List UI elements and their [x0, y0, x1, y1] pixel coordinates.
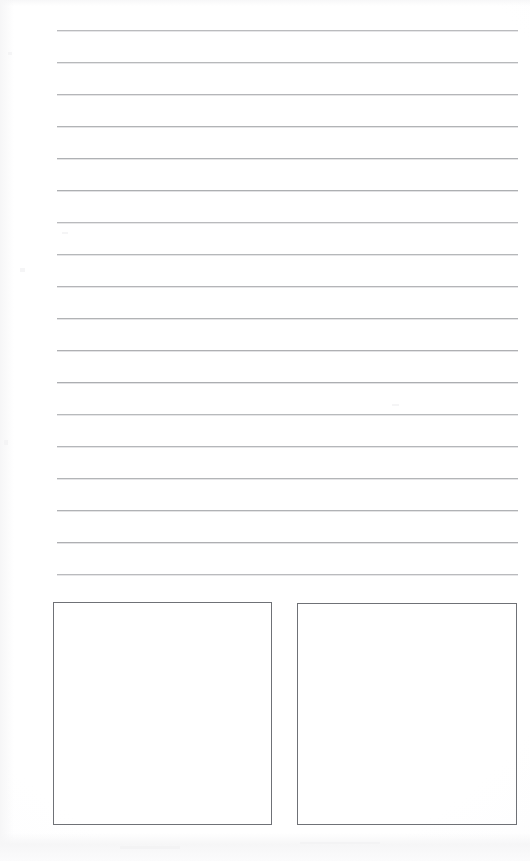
scanned-worksheet-page — [0, 0, 530, 861]
answer-boxes-group — [0, 0, 530, 861]
left-answer-box[interactable] — [53, 602, 272, 825]
right-answer-box[interactable] — [297, 603, 517, 825]
